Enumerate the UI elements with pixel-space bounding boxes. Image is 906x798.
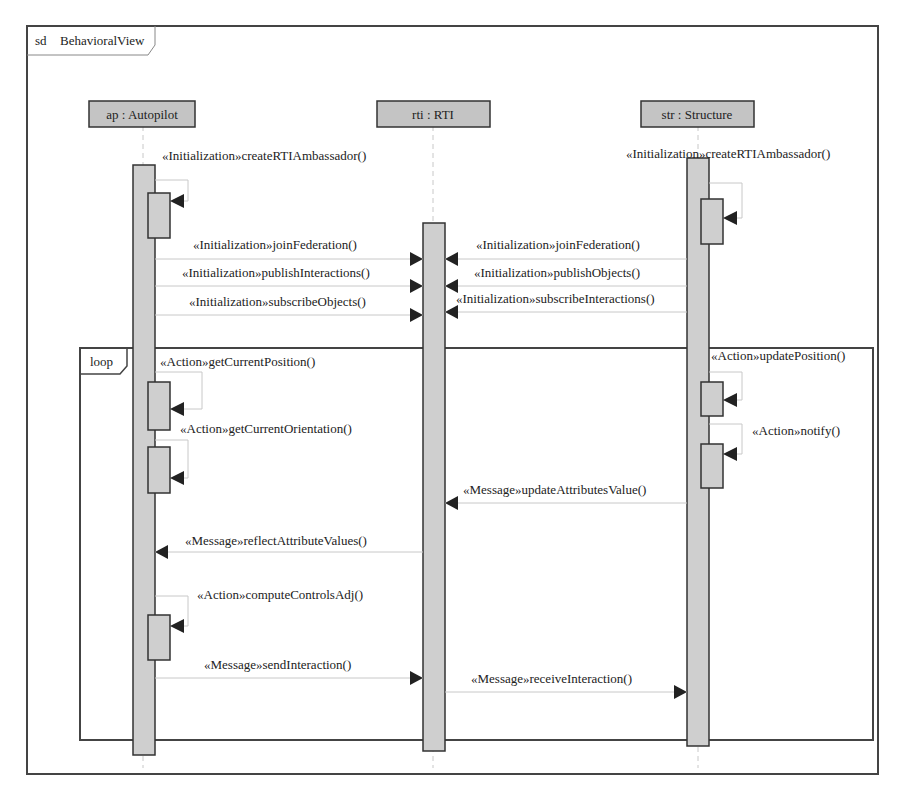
msg-publishObjects[interactable]: «Initialization»publishObjects() bbox=[474, 265, 640, 280]
lifeline-ap[interactable]: ap : Autopilot bbox=[89, 101, 195, 127]
frame-title: BehavioralView bbox=[60, 33, 145, 48]
message-labels: «Initialization»createRTIAmbassador() «I… bbox=[160, 146, 845, 686]
msg-publishInteractions[interactable]: «Initialization»publishInteractions() bbox=[182, 265, 370, 280]
msg-notify[interactable]: «Action»notify() bbox=[752, 423, 840, 438]
msg-receiveInteraction[interactable]: «Message»receiveInteraction() bbox=[471, 671, 632, 686]
activation-ap-createRTIAmbassador bbox=[148, 193, 170, 238]
msg-computeControlsAdj[interactable]: «Action»computeControlsAdj() bbox=[197, 587, 363, 602]
lifeline-str-label: str : Structure bbox=[662, 107, 733, 122]
msg-ap-createRTIAmbassador[interactable]: «Initialization»createRTIAmbassador() bbox=[162, 148, 366, 163]
msg-updateAttributesValue[interactable]: «Message»updateAttributesValue() bbox=[463, 482, 646, 497]
activation-str-createRTIAmbassador bbox=[701, 199, 723, 244]
msg-sendInteraction[interactable]: «Message»sendInteraction() bbox=[204, 657, 351, 672]
msg-ap-joinFederation[interactable]: «Initialization»joinFederation() bbox=[193, 237, 357, 252]
activation-str-notify bbox=[701, 444, 723, 488]
lifeline-str[interactable]: str : Structure bbox=[641, 101, 754, 127]
lifeline-rti[interactable]: rti : RTI bbox=[377, 101, 490, 127]
frame-keyword: sd bbox=[35, 33, 47, 48]
activation-ap-getCurrentOrientation bbox=[148, 447, 170, 493]
msg-str-joinFederation[interactable]: «Initialization»joinFederation() bbox=[476, 237, 640, 252]
sequence-diagram: sd BehavioralView ap : Autopilot rti : R… bbox=[0, 0, 906, 798]
activation-ap-computeControlsAdj bbox=[148, 615, 170, 660]
lifeline-rti-label: rti : RTI bbox=[412, 107, 454, 122]
msg-subscribeObjects[interactable]: «Initialization»subscribeObjects() bbox=[189, 294, 366, 309]
msg-str-createRTIAmbassador[interactable]: «Initialization»createRTIAmbassador() bbox=[626, 146, 830, 161]
msg-reflectAttributeValues[interactable]: «Message»reflectAttributeValues() bbox=[185, 533, 367, 548]
msg-subscribeInteractions[interactable]: «Initialization»subscribeInteractions() bbox=[456, 291, 655, 306]
msg-getCurrentOrientation[interactable]: «Action»getCurrentOrientation() bbox=[180, 421, 352, 436]
activation-rti-main bbox=[423, 223, 445, 751]
message-lines bbox=[155, 259, 687, 692]
message-arrowheads bbox=[155, 252, 687, 699]
msg-updatePosition[interactable]: «Action»updatePosition() bbox=[711, 348, 845, 363]
activation-str-updatePosition bbox=[701, 382, 723, 416]
loop-operator: loop bbox=[90, 354, 113, 369]
lifeline-ap-label: ap : Autopilot bbox=[106, 107, 178, 122]
activation-ap-getCurrentPosition bbox=[148, 382, 170, 430]
msg-getCurrentPosition[interactable]: «Action»getCurrentPosition() bbox=[160, 354, 315, 369]
